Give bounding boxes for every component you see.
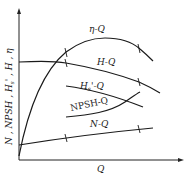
y-axis-label: N , NPSH , Hs' , H , η <box>4 48 15 146</box>
y-axis-arrow-icon <box>17 8 21 14</box>
n-q-label: N-Q <box>89 119 109 129</box>
y-axis-label-tail: ' , H , η <box>4 48 14 81</box>
pump-performance-diagram: η-Q H-Q Hs'-Q NPSH-Q N-Q Q N , NPSH , Hs… <box>0 0 185 183</box>
y-axis-label-main: N , NPSH , H <box>4 84 14 146</box>
n-q-curve <box>19 128 153 145</box>
npsh-q-label: NPSH-Q <box>69 95 109 113</box>
x-axis-label: Q <box>97 164 105 174</box>
hs-tail: '-Q <box>91 81 105 91</box>
h-q-label: H-Q <box>96 57 116 67</box>
hs-q-label: Hs'-Q <box>79 81 104 92</box>
x-axis-arrow-icon <box>178 158 184 162</box>
hs-main: H <box>79 81 88 91</box>
eta-q-label: η-Q <box>89 24 105 34</box>
